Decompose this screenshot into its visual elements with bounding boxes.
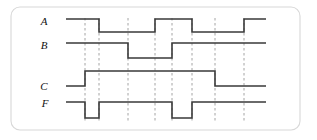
timing-diagram-figure: ABCF [0,0,317,140]
signal-label-f: F [41,97,49,109]
signal-label-b: B [41,39,48,51]
timing-diagram-canvas: ABCF [0,0,317,140]
signal-label-a: A [40,15,48,27]
signal-label-c: C [40,80,48,92]
